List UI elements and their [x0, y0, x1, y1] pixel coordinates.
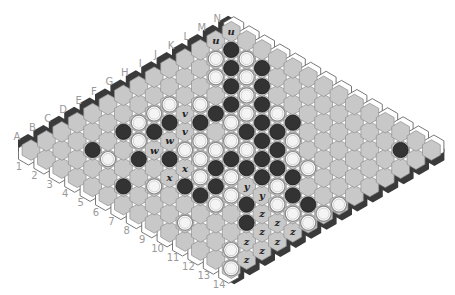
- black-stone: [193, 115, 208, 130]
- move-mark-z: z: [289, 226, 296, 237]
- row-label: 9: [139, 234, 145, 245]
- black-stone: [285, 188, 300, 203]
- column-label: N: [213, 13, 220, 24]
- black-stone: [224, 61, 239, 76]
- row-label: 7: [108, 216, 114, 227]
- row-label: 12: [182, 261, 195, 272]
- move-mark-y: y: [243, 181, 251, 192]
- black-stone: [147, 124, 162, 139]
- black-stone: [270, 142, 285, 157]
- black-stone: [239, 215, 254, 230]
- move-mark-u: u: [228, 26, 235, 37]
- column-label: A: [14, 131, 21, 142]
- black-stone: [208, 161, 223, 176]
- column-label: C: [44, 113, 51, 124]
- column-label: B: [29, 122, 36, 133]
- row-label: 14: [213, 279, 226, 290]
- column-label: G: [106, 76, 114, 87]
- black-stone: [162, 115, 177, 130]
- black-stone: [270, 124, 285, 139]
- move-mark-u: u: [212, 35, 219, 46]
- row-label: 6: [93, 207, 99, 218]
- black-stone: [393, 142, 408, 157]
- row-label: 13: [197, 270, 210, 281]
- move-mark-w: w: [165, 135, 174, 146]
- hex-board-diagram: ABCDEFGHIJKLMN1234567891011121314uuvvwwx…: [0, 0, 455, 295]
- move-mark-z: z: [243, 236, 250, 247]
- black-stone: [208, 106, 223, 121]
- row-label: 4: [62, 188, 68, 199]
- black-stone: [116, 124, 131, 139]
- black-stone: [254, 170, 269, 185]
- black-stone: [224, 42, 239, 57]
- move-mark-z: z: [274, 217, 281, 228]
- move-mark-w: w: [150, 145, 159, 156]
- black-stone: [254, 61, 269, 76]
- row-label: 1: [16, 161, 22, 172]
- black-stone: [254, 97, 269, 112]
- move-mark-z: z: [258, 208, 265, 219]
- move-mark-z: z: [243, 254, 250, 265]
- black-stone: [116, 179, 131, 194]
- black-stone: [239, 124, 254, 139]
- row-label: 10: [151, 243, 164, 254]
- row-label: 5: [77, 197, 83, 208]
- black-stone: [285, 115, 300, 130]
- move-mark-z: z: [258, 226, 265, 237]
- move-mark-y: y: [258, 190, 266, 201]
- black-stone: [254, 133, 269, 148]
- move-mark-v: v: [182, 108, 188, 119]
- hex-board: ABCDEFGHIJKLMN1234567891011121314uuvvwwx…: [0, 0, 455, 295]
- move-mark-x: x: [166, 172, 174, 183]
- row-label: 8: [124, 225, 130, 236]
- black-stone: [193, 188, 208, 203]
- black-stone: [254, 115, 269, 130]
- black-stone: [162, 152, 177, 167]
- black-stone: [177, 179, 192, 194]
- black-stone: [224, 97, 239, 112]
- column-label: H: [121, 67, 129, 78]
- column-label: I: [139, 58, 142, 69]
- black-stone: [208, 179, 223, 194]
- move-mark-z: z: [258, 245, 265, 256]
- black-stone: [239, 197, 254, 212]
- row-label: 2: [31, 170, 37, 181]
- black-stone: [270, 161, 285, 176]
- black-stone: [285, 170, 300, 185]
- row-label: 3: [47, 179, 53, 190]
- black-stone: [301, 197, 316, 212]
- column-label: K: [168, 40, 175, 51]
- move-mark-x: x: [181, 163, 189, 174]
- black-stone: [224, 79, 239, 94]
- black-stone: [224, 152, 239, 167]
- column-label: D: [59, 104, 67, 115]
- move-mark-v: v: [182, 126, 188, 137]
- black-stone: [254, 152, 269, 167]
- black-stone: [131, 152, 146, 167]
- column-label: J: [153, 49, 157, 60]
- column-label: L: [184, 31, 190, 42]
- black-stone: [239, 161, 254, 176]
- move-mark-z: z: [274, 236, 281, 247]
- column-label: M: [197, 22, 206, 33]
- black-stone: [85, 142, 100, 157]
- column-label: F: [91, 86, 97, 97]
- row-label: 11: [167, 252, 180, 263]
- black-stone: [254, 79, 269, 94]
- column-label: E: [75, 95, 81, 106]
